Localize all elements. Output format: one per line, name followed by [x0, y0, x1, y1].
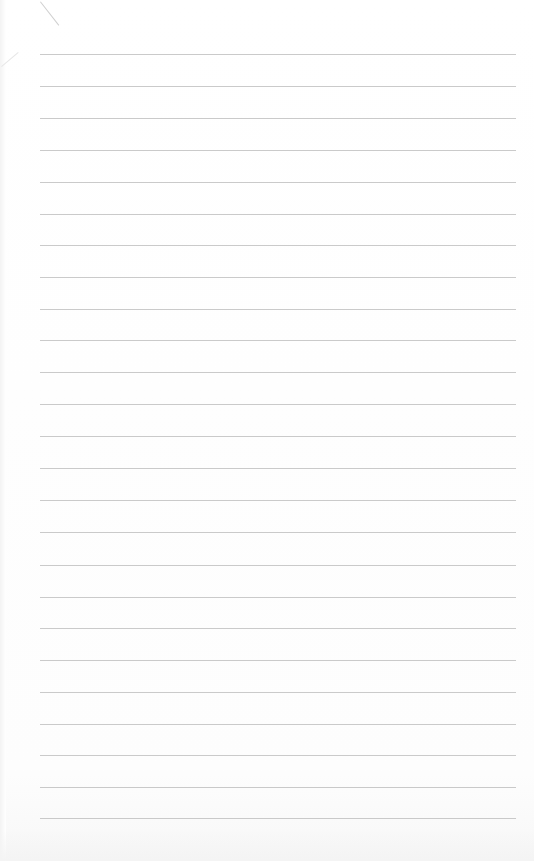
ruled-line	[40, 818, 516, 819]
pencil-mark	[40, 1, 59, 25]
page-left-edge	[0, 0, 6, 861]
ruled-line	[40, 86, 516, 87]
ruled-line	[40, 436, 516, 437]
ruled-line	[40, 277, 516, 278]
ruled-line	[40, 372, 516, 373]
ruled-line	[40, 692, 516, 693]
ruled-line	[40, 565, 516, 566]
ruled-line	[40, 214, 516, 215]
ruled-line	[40, 628, 516, 629]
notebook-page	[0, 0, 534, 861]
ruled-line	[40, 182, 516, 183]
ruled-line	[40, 500, 516, 501]
ruled-line	[40, 54, 516, 55]
ruled-line	[40, 468, 516, 469]
ruled-line	[40, 597, 516, 598]
ruled-line	[40, 118, 516, 119]
ruled-line	[40, 724, 516, 725]
ruled-line	[40, 245, 516, 246]
ruled-line	[40, 755, 516, 756]
ruled-line	[40, 660, 516, 661]
page-bottom-shadow	[0, 831, 534, 861]
ruled-line	[40, 404, 516, 405]
ruled-line	[40, 532, 516, 533]
ruled-line	[40, 787, 516, 788]
ruled-line	[40, 340, 516, 341]
ruled-line	[40, 309, 516, 310]
ruled-line	[40, 150, 516, 151]
